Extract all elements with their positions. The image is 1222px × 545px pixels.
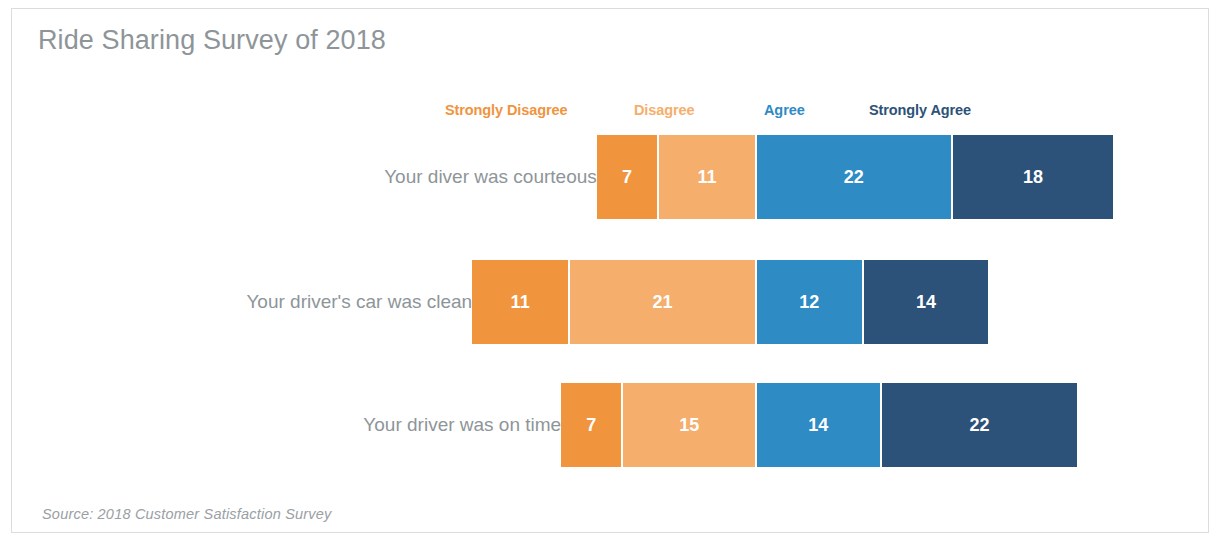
bar-segment[interactable]: 22 [757,135,953,219]
chart-row: Your driver was on time7151422 [561,383,1077,467]
bar-segment[interactable]: 7 [561,383,623,467]
bar-segment[interactable]: 14 [757,383,882,467]
bar-value-label: 7 [622,167,632,188]
bar-value-label: 12 [799,292,819,313]
bar-segment[interactable]: 21 [570,260,757,344]
bar-segment[interactable]: 14 [864,260,989,344]
bar-segment[interactable]: 22 [882,383,1078,467]
bar-segment[interactable]: 12 [757,260,864,344]
bar-segment[interactable]: 7 [597,135,659,219]
bar-segment[interactable]: 11 [472,260,570,344]
bar-value-label: 22 [844,167,864,188]
bar-segment[interactable]: 15 [623,383,757,467]
bar-segment[interactable]: 18 [953,135,1113,219]
bar-segment[interactable]: 11 [659,135,757,219]
source-note: Source: 2018 Customer Satisfaction Surve… [42,506,331,522]
bar-value-label: 11 [511,292,530,313]
bar-value-label: 14 [808,415,828,436]
plot-area: Your diver was courteous7112218Your driv… [12,9,1210,534]
bar-value-label: 15 [679,415,699,436]
bar-value-label: 11 [698,167,717,188]
category-label: Your driver was on time [32,383,561,467]
chart-frame: Ride Sharing Survey of 2018 Strongly Dis… [11,8,1209,533]
chart-row: Your diver was courteous7112218 [597,135,1113,219]
category-label: Your diver was courteous [32,135,597,219]
bar-value-label: 14 [916,292,936,313]
category-label: Your driver's car was clean [32,260,472,344]
bar-value-label: 22 [969,415,989,436]
chart-row: Your driver's car was clean11211214 [472,260,988,344]
bar-value-label: 7 [586,415,596,436]
bar-value-label: 18 [1023,167,1043,188]
bar-value-label: 21 [653,292,673,313]
